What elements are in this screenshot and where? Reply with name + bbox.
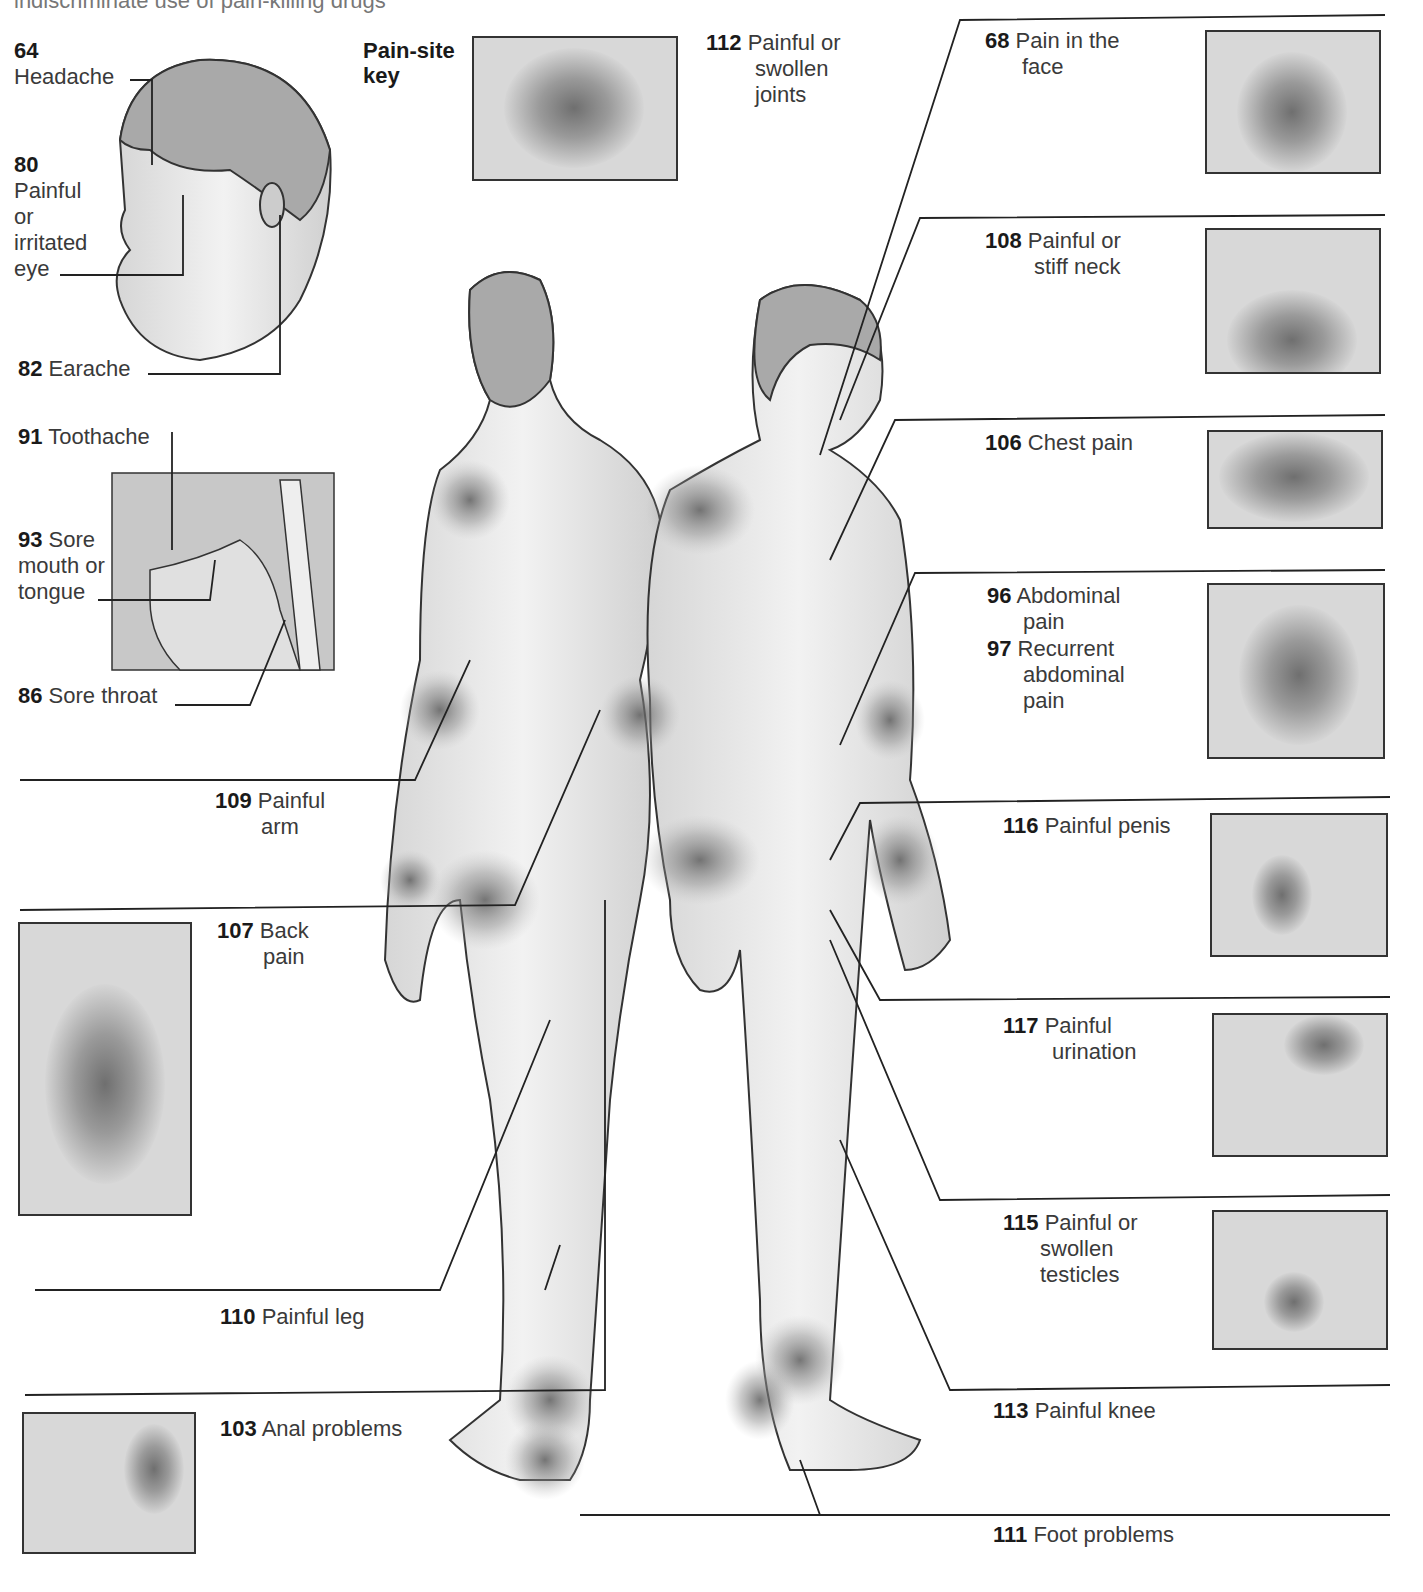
label-text: Painful: [258, 788, 325, 813]
label-text: tongue: [18, 579, 105, 605]
label-text: pain: [987, 609, 1120, 635]
abdominal-pain-thumbnail: [1207, 583, 1385, 759]
label-number: 110: [220, 1304, 256, 1329]
pain-site-key-title: Pain-site key: [363, 38, 455, 88]
mouth-section-illustration: [112, 473, 334, 670]
label-text: pain: [987, 688, 1125, 714]
penis-pain-thumbnail: [1210, 813, 1388, 957]
label-recurrent-abdominal: 97 Recurrent abdominal pain: [987, 636, 1125, 714]
label-text: Painful: [1045, 1013, 1112, 1038]
label-number: 117: [1003, 1013, 1039, 1038]
label-chest: 106 Chest pain: [985, 430, 1133, 456]
label-text: pain: [217, 944, 309, 970]
label-text: mouth or: [18, 553, 105, 579]
label-number: 93: [18, 527, 42, 552]
label-text: Chest pain: [1028, 430, 1133, 455]
label-eye: 80 Painful or irritated eye: [14, 152, 87, 282]
label-earache: 82 Earache: [18, 356, 131, 382]
label-penis: 116 Painful penis: [1003, 813, 1171, 839]
label-text: face: [985, 54, 1120, 80]
label-number: 109: [215, 788, 252, 813]
label-text: eye: [14, 256, 87, 282]
label-number: 113: [993, 1398, 1029, 1423]
label-back: 107 Back pain: [217, 918, 309, 970]
label-testicles: 115 Painful or swollen testicles: [1003, 1210, 1138, 1288]
label-number: 80: [14, 152, 38, 177]
urination-pain-thumbnail: [1212, 1013, 1388, 1157]
pain-site-key-swatch: [472, 36, 678, 181]
label-text: urination: [1003, 1039, 1136, 1065]
key-title-line: key: [363, 63, 455, 88]
label-text: Painful or: [1045, 1210, 1138, 1235]
label-text: Toothache: [48, 424, 150, 449]
label-text: swollen: [706, 56, 841, 82]
label-text: Painful leg: [262, 1304, 365, 1329]
label-text: Painful or: [1028, 228, 1121, 253]
label-text: Headache: [14, 64, 114, 90]
label-number: 116: [1003, 813, 1039, 838]
label-number: 68: [985, 28, 1009, 53]
key-title-line: Pain-site: [363, 38, 455, 63]
label-text: arm: [215, 814, 325, 840]
label-text: testicles: [1003, 1262, 1138, 1288]
label-throat: 86 Sore throat: [18, 683, 157, 709]
label-text: Abdominal: [1016, 583, 1120, 608]
back-pain-thumbnail: [18, 922, 192, 1216]
face-pain-thumbnail: [1205, 30, 1381, 174]
label-urination: 117 Painful urination: [1003, 1013, 1136, 1065]
label-text: irritated: [14, 230, 87, 256]
label-number: 111: [993, 1522, 1027, 1547]
label-foot: 111 Foot problems: [993, 1522, 1174, 1548]
back-figure: [380, 272, 660, 1500]
label-text: Pain in the: [1016, 28, 1120, 53]
label-text: Painful: [14, 178, 87, 204]
label-arm: 109 Painful arm: [215, 788, 325, 840]
label-text: Painful or: [748, 30, 841, 55]
label-text: Recurrent: [1018, 636, 1115, 661]
head-illustration: [117, 60, 331, 360]
label-text: Foot problems: [1033, 1522, 1174, 1547]
label-text: stiff neck: [985, 254, 1121, 280]
label-number: 115: [1003, 1210, 1039, 1235]
label-headache: 64 Headache: [14, 38, 114, 90]
chest-pain-thumbnail: [1207, 430, 1383, 529]
label-number: 64: [14, 38, 38, 63]
label-text: joints: [706, 82, 841, 108]
label-number: 97: [987, 636, 1011, 661]
label-number: 106: [985, 430, 1022, 455]
label-mouth: 93 Sore mouth or tongue: [18, 527, 105, 605]
label-number: 96: [987, 583, 1011, 608]
label-number: 91: [18, 424, 42, 449]
label-number: 108: [985, 228, 1022, 253]
label-knee: 113 Painful knee: [993, 1398, 1156, 1424]
label-text: Painful penis: [1045, 813, 1171, 838]
label-text: Earache: [49, 356, 131, 381]
label-text: or: [14, 204, 87, 230]
label-number: 107: [217, 918, 254, 943]
anal-problems-thumbnail: [22, 1412, 196, 1554]
label-text: Painful knee: [1035, 1398, 1156, 1423]
label-anal: 103 Anal problems: [220, 1416, 402, 1442]
neck-pain-thumbnail: [1205, 228, 1381, 374]
label-text: Sore throat: [49, 683, 158, 708]
label-number: 103: [220, 1416, 257, 1441]
label-text: Sore: [49, 527, 95, 552]
label-text: swollen: [1003, 1236, 1138, 1262]
label-abdominal: 96 Abdominal pain: [987, 583, 1120, 635]
label-text: Back: [260, 918, 309, 943]
front-figure: [600, 285, 950, 1470]
label-neck: 108 Painful or stiff neck: [985, 228, 1121, 280]
label-text: abdominal: [987, 662, 1125, 688]
label-number: 86: [18, 683, 42, 708]
label-text: Anal problems: [262, 1416, 403, 1441]
label-leg: 110 Painful leg: [220, 1304, 364, 1330]
label-joints: 112 Painful or swollen joints: [706, 30, 841, 108]
label-toothache: 91 Toothache: [18, 424, 150, 450]
label-number: 82: [18, 356, 42, 381]
testicles-pain-thumbnail: [1212, 1210, 1388, 1350]
label-number: 112: [706, 30, 742, 55]
label-face: 68 Pain in the face: [985, 28, 1120, 80]
